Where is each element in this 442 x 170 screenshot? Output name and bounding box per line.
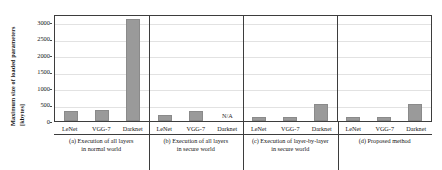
x-tick-label: Darknet bbox=[117, 125, 148, 132]
x-tick-label: VGG-7 bbox=[180, 125, 211, 132]
x-group-d: LeNetVGG-7Darknet(d) Proposed method bbox=[338, 122, 433, 170]
group-caption-a: (a) Execution of all layersin normal wor… bbox=[54, 135, 149, 152]
bar bbox=[189, 111, 203, 121]
y-tick-mark bbox=[50, 23, 52, 24]
x-tick-label: LeNet bbox=[338, 125, 369, 132]
caption-line-2: in secure world bbox=[149, 145, 244, 153]
x-tick-label: VGG-7 bbox=[85, 125, 116, 132]
bar-slot bbox=[180, 16, 211, 121]
x-group-c: LeNetVGG-7Darknet(c) Execution of layer-… bbox=[243, 122, 338, 170]
group-caption-c: (c) Execution of layer-by-layerin secure… bbox=[243, 135, 338, 152]
y-axis-tick-labels: 050010001500200025003000 bbox=[24, 0, 52, 128]
y-tick-mark bbox=[50, 40, 52, 41]
bar-slot bbox=[55, 16, 86, 121]
na-label: N/A bbox=[212, 112, 243, 119]
bar-chart-figure: Maximum size of loaded parameters [kbyte… bbox=[0, 0, 442, 170]
x-tick-label: Darknet bbox=[306, 125, 337, 132]
bar-group-d bbox=[337, 16, 431, 121]
x-tick-labels: LeNetVGG-7Darknet bbox=[54, 122, 149, 134]
y-tick-mark bbox=[50, 106, 52, 107]
y-tick-label: 2000 bbox=[37, 53, 50, 59]
x-tick-labels: LeNetVGG-7Darknet bbox=[338, 122, 433, 134]
caption-line-2: in secure world bbox=[243, 145, 338, 153]
x-tick-label: Darknet bbox=[400, 125, 431, 132]
x-group-a: LeNetVGG-7Darknet(a) Execution of all la… bbox=[54, 122, 149, 170]
bar bbox=[408, 104, 422, 121]
y-tick-label: 1500 bbox=[37, 69, 50, 75]
caption-line-1: (c) Execution of layer-by-layer bbox=[252, 137, 329, 144]
group-caption-b: (b) Execution of all layersin secure wor… bbox=[149, 135, 244, 152]
bar-slot bbox=[274, 16, 305, 121]
x-tick-labels: LeNetVGG-7Darknet bbox=[243, 122, 338, 134]
caption-line-2: in normal world bbox=[54, 145, 149, 153]
x-group-b: LeNetVGG-7Darknet(b) Execution of all la… bbox=[149, 122, 244, 170]
bar bbox=[95, 110, 109, 121]
y-tick-mark bbox=[50, 56, 52, 57]
bar bbox=[158, 115, 172, 121]
bar bbox=[346, 117, 360, 121]
bar-groups: N/A bbox=[55, 16, 431, 121]
caption-line-1: (d) Proposed method bbox=[359, 137, 411, 144]
plot-area: N/A bbox=[54, 15, 432, 122]
x-tick-label: LeNet bbox=[243, 125, 274, 132]
x-tick-label: Darknet bbox=[211, 125, 242, 132]
bar-slot bbox=[86, 16, 117, 121]
x-tick-labels: LeNetVGG-7Darknet bbox=[149, 122, 244, 134]
caption-line-1: (b) Execution of all layers bbox=[163, 137, 228, 144]
bar bbox=[314, 104, 328, 121]
bar bbox=[252, 117, 266, 121]
caption-line-1: (a) Execution of all layers bbox=[69, 137, 133, 144]
group-caption-d: (d) Proposed method bbox=[338, 135, 433, 145]
y-tick-label: 2500 bbox=[37, 36, 50, 42]
x-tick-label: LeNet bbox=[149, 125, 180, 132]
y-axis-title: Maximum size of loaded parameters [kbyte… bbox=[0, 0, 24, 128]
bar-group-a bbox=[55, 16, 149, 121]
bar-slot bbox=[118, 16, 149, 121]
bar bbox=[64, 111, 78, 121]
bar-slot bbox=[149, 16, 180, 121]
x-tick-label: VGG-7 bbox=[369, 125, 400, 132]
y-tick-mark bbox=[50, 122, 52, 123]
y-tick-label: 500 bbox=[40, 102, 50, 108]
y-tick-label: 1000 bbox=[37, 86, 50, 92]
bar bbox=[126, 19, 140, 121]
bar-slot: N/A bbox=[212, 16, 243, 121]
bar bbox=[377, 117, 391, 121]
bar-slot bbox=[243, 16, 274, 121]
bar-group-c bbox=[243, 16, 337, 121]
bar-group-b: N/A bbox=[149, 16, 243, 121]
x-tick-label: VGG-7 bbox=[274, 125, 305, 132]
bar-slot bbox=[368, 16, 399, 121]
y-axis-title-text: Maximum size of loaded parameters bbox=[9, 26, 16, 126]
bar-slot bbox=[306, 16, 337, 121]
bar-slot bbox=[337, 16, 368, 121]
x-tick-label: LeNet bbox=[54, 125, 85, 132]
y-tick-label: 3000 bbox=[37, 20, 50, 26]
bar bbox=[283, 117, 297, 121]
x-axis-labels-and-captions: LeNetVGG-7Darknet(a) Execution of all la… bbox=[54, 122, 432, 170]
bar-slot bbox=[400, 16, 431, 121]
y-tick-mark bbox=[50, 73, 52, 74]
y-tick-mark bbox=[50, 89, 52, 90]
